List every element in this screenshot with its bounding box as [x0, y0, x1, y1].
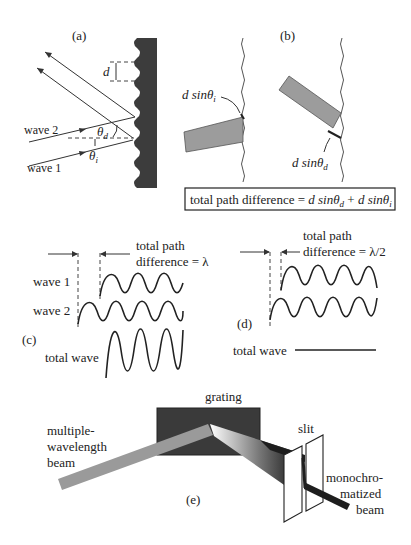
mono-label-line2: matized: [340, 486, 382, 501]
dsin-theta-i-label: d sinθi: [182, 87, 216, 104]
wave1-curve: [281, 265, 377, 290]
grating-surface-left: [242, 38, 245, 182]
slit-plate-back: [306, 435, 323, 511]
path-diff-line2: difference = λ/2: [303, 244, 386, 259]
beam-label-line3: beam: [47, 455, 75, 470]
mono-label-line1: monochro-: [326, 470, 383, 485]
arrowhead-icon: [100, 251, 106, 257]
total-wave-curve: [106, 329, 183, 378]
theta-d-arc: [113, 125, 117, 137]
panel-e-label: (e): [186, 492, 200, 507]
theta-i-label: θi: [89, 148, 98, 165]
slit-label: slit: [298, 421, 314, 436]
total-wave-label: total wave: [233, 343, 287, 358]
grating-surface: [134, 38, 157, 188]
arrowhead-icon: [45, 52, 52, 58]
beam-label-line2: wavelength: [47, 439, 107, 454]
diffracted-beam-bar: [279, 76, 341, 128]
arrowhead-icon: [264, 249, 270, 255]
dsin-theta-d-label: d sinθd: [292, 155, 328, 172]
beam-label-line1: multiple-: [47, 423, 95, 438]
panel-a-label: (a): [72, 28, 86, 43]
leader-line-i: [221, 97, 240, 113]
slit-plate-front: [284, 446, 302, 522]
wave2-curve: [78, 301, 183, 324]
wave1-curve: [100, 273, 183, 296]
panel-c: total path difference = λ wave 1 wave 2 …: [22, 238, 209, 378]
wave2-curve: [270, 297, 377, 320]
arrowhead-icon: [281, 249, 287, 255]
mono-label-line3: beam: [356, 502, 384, 517]
panel-c-label: (c): [22, 332, 36, 347]
grating-label: grating: [205, 389, 242, 404]
wave2-label: wave 2: [24, 123, 58, 137]
path-difference-equation: total path difference = d sinθd + d sinθ…: [190, 192, 392, 209]
leader-line-d: [324, 138, 330, 152]
path-diff-line1: total path: [136, 238, 185, 253]
path-segment-d: [328, 131, 341, 138]
theta-d-label: θd: [97, 124, 108, 141]
panel-d: total path difference = λ/2 (d) total wa…: [233, 228, 386, 358]
total-wave-label: total wave: [45, 350, 99, 365]
wave1-label: wave 1: [33, 274, 70, 289]
path-diff-line1: total path: [303, 228, 352, 243]
incident-beam-bar: [184, 117, 243, 152]
panel-b: (b) d sinθi d sinθd total path differenc…: [182, 28, 395, 210]
spacing-d-label: d: [103, 64, 110, 79]
panel-a: (a) d wave 2 wave 1 θd θi: [24, 28, 157, 188]
panel-b-label: (b): [280, 28, 295, 43]
grating-surface-right: [341, 38, 344, 182]
panel-e: grating slit multiple- wavelength beam m…: [47, 389, 384, 522]
arrowhead-icon: [72, 251, 78, 257]
arrowhead-icon: [37, 68, 44, 74]
path-diff-line2: difference = λ: [136, 254, 209, 269]
diffraction-grating-figure: (a) d wave 2 wave 1 θd θi (b) d: [0, 0, 411, 545]
panel-d-label: (d): [237, 316, 252, 331]
wave2-label: wave 2: [33, 303, 70, 318]
wave1-label: wave 1: [27, 161, 61, 175]
